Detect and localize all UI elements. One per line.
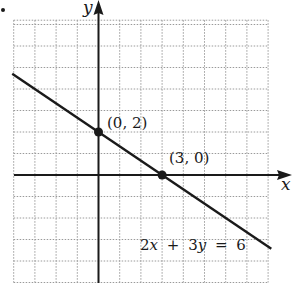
y-axis-label: y: [82, 0, 93, 17]
coordinate-plane: y x (0, 2) (3, 0) 2x + 3y = 6: [0, 0, 293, 285]
line-2x-plus-3y-equals-6: [12, 74, 271, 249]
x-axis-label: x: [281, 174, 291, 194]
y-axis: [94, 0, 104, 283]
point-3-0-label: (3, 0): [169, 149, 209, 167]
point-0-2-label: (0, 2): [107, 114, 147, 132]
y-axis-arrow-icon: [94, 0, 104, 15]
graph-figure: y x (0, 2) (3, 0) 2x + 3y = 6: [0, 0, 293, 285]
equation-label: 2x + 3y = 6: [140, 236, 246, 254]
point-3-0: [158, 171, 167, 180]
point-0-2: [94, 128, 103, 137]
stray-bullet-mark: [1, 8, 5, 12]
